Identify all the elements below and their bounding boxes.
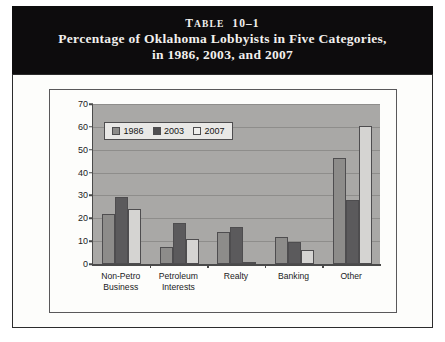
- x-axis-label: Banking: [265, 271, 323, 282]
- legend-swatch-1986: [112, 127, 120, 135]
- y-axis-tick-label: 10: [78, 236, 88, 246]
- y-axis-tick-label: 40: [78, 168, 88, 178]
- legend-swatch-2007: [193, 127, 201, 135]
- x-axis-label: Realty: [207, 271, 265, 282]
- table-number: 10–1: [232, 17, 259, 29]
- legend-label-2003: 2003: [164, 126, 184, 136]
- bar-1986[interactable]: [217, 232, 230, 264]
- bar-1986[interactable]: [275, 237, 288, 264]
- bar-2007[interactable]: [186, 239, 199, 264]
- x-axis-label: Non-Petro Business: [92, 271, 150, 292]
- bar-chart: 010203040506070 Non-Petro BusinessPetrol…: [50, 90, 396, 312]
- table-title-line-2: in 1986, 2003, and 2007: [152, 47, 293, 63]
- bar-2003[interactable]: [230, 227, 243, 264]
- legend-swatch-2003: [153, 127, 161, 135]
- y-axis-tick-label: 60: [78, 122, 88, 132]
- bar-2003[interactable]: [173, 223, 186, 264]
- chart-legend: 198620032007: [104, 122, 233, 140]
- bar-1986[interactable]: [102, 214, 115, 264]
- x-axis-label: Petroleum Interests: [150, 271, 208, 292]
- bar-2003[interactable]: [346, 200, 359, 264]
- y-axis-tick-label: 50: [78, 145, 88, 155]
- chart-frame: 010203040506070 Non-Petro BusinessPetrol…: [49, 89, 397, 313]
- table-title-line-1: Percentage of Oklahoma Lobbyists in Five…: [58, 31, 386, 47]
- table-word-cap: T: [185, 17, 194, 29]
- bar-2007[interactable]: [128, 209, 141, 264]
- table-word-rest: ABLE: [194, 19, 224, 29]
- bar-group: [323, 104, 381, 264]
- bar-2003[interactable]: [288, 242, 301, 264]
- y-axis-tick-label: 70: [78, 99, 88, 109]
- table-title-banner: TABLE 10–1 Percentage of Oklahoma Lobbyi…: [12, 6, 433, 74]
- bar-2003[interactable]: [115, 197, 128, 264]
- legend-label-2007: 2007: [205, 126, 225, 136]
- bar-group: [266, 104, 324, 264]
- table-number-line: TABLE 10–1: [185, 17, 259, 29]
- y-axis-tick-label: 0: [83, 259, 88, 269]
- x-axis-tick-mark: [322, 264, 324, 268]
- legend-label-1986: 1986: [124, 126, 144, 136]
- legend-item-2003[interactable]: 2003: [153, 126, 185, 136]
- y-axis-tick-label: 30: [78, 190, 88, 200]
- table-figure-page: TABLE 10–1 Percentage of Oklahoma Lobbyi…: [0, 0, 445, 342]
- legend-item-1986[interactable]: 1986: [112, 126, 144, 136]
- x-axis-line: [92, 264, 381, 266]
- x-axis-tick-mark: [207, 264, 209, 268]
- legend-item-2007[interactable]: 2007: [193, 126, 225, 136]
- bar-2007[interactable]: [359, 126, 372, 264]
- x-axis-tick-mark: [150, 264, 152, 268]
- bar-2007[interactable]: [301, 250, 314, 264]
- x-axis-tick-mark: [265, 264, 267, 268]
- figure-panel: 010203040506070 Non-Petro BusinessPetrol…: [12, 74, 433, 328]
- bar-1986[interactable]: [160, 247, 173, 264]
- y-axis-tick-label: 20: [78, 213, 88, 223]
- x-axis-label: Other: [322, 271, 380, 282]
- bar-1986[interactable]: [333, 158, 346, 264]
